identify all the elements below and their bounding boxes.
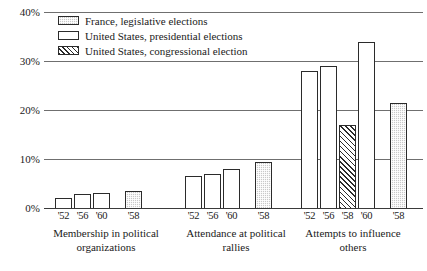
legend-swatch-white-icon [58, 31, 79, 40]
x-ticks-influence: '52 '56 '58 '60 '58 [300, 210, 408, 224]
caption-line: organizations [36, 240, 176, 254]
caption-line: Membership in political [36, 226, 176, 240]
legend-label: United States, congressional election [85, 45, 248, 57]
legend-item-france: France, legislative elections [58, 14, 248, 27]
y-tick-label: 0% [0, 202, 40, 214]
bar-slot [389, 12, 408, 208]
group-caption-membership: Membership in political organizations [36, 226, 176, 254]
bar-chart: 40% 30% 20% 10% 0% [0, 0, 427, 271]
x-ticks-membership: '52 '56 '60 '58 [54, 210, 143, 224]
bar-influence-france-58 [390, 103, 407, 208]
bar-influence-congressional-58 [339, 125, 356, 208]
bar-rallies-60 [223, 169, 240, 208]
x-tick: '60 [92, 210, 111, 222]
bar-slot [338, 12, 357, 208]
legend-item-us-presidential: United States, presidential elections [58, 29, 248, 42]
legend: France, legislative elections United Sta… [58, 14, 248, 57]
legend-label: United States, presidential elections [85, 30, 243, 42]
y-tick-label: 20% [0, 104, 40, 116]
x-tick: '60 [222, 210, 241, 222]
bar-group-influence [300, 12, 408, 208]
x-tick: '56 [319, 210, 338, 222]
bar-influence-60 [358, 42, 375, 208]
x-tick: '58 [124, 210, 143, 222]
x-tick: '58 [338, 210, 357, 222]
bar-membership-56 [74, 194, 91, 208]
x-ticks-rallies: '52 '56 '60 '58 [184, 210, 273, 224]
bar-influence-52 [301, 71, 318, 208]
x-tick: '52 [184, 210, 203, 222]
legend-label: France, legislative elections [85, 15, 207, 27]
x-tick: '56 [73, 210, 92, 222]
x-tick: '60 [357, 210, 376, 222]
x-tick: '52 [300, 210, 319, 222]
y-tick-label: 40% [0, 6, 40, 18]
x-tick: '58 [389, 210, 408, 222]
bar-rallies-france-58 [255, 162, 272, 208]
legend-swatch-hatched-icon [58, 46, 79, 55]
y-tick-label: 30% [0, 55, 40, 67]
bar-membership-60 [93, 193, 110, 208]
bar-membership-52 [55, 198, 72, 208]
x-tick: '58 [254, 210, 273, 222]
y-tick-label: 10% [0, 153, 40, 165]
bar-influence-56 [320, 66, 337, 208]
bar-slot [319, 12, 338, 208]
bar-slot [357, 12, 376, 208]
axis-baseline [44, 208, 423, 209]
legend-swatch-gray-icon [58, 16, 79, 25]
legend-item-us-congressional: United States, congressional election [58, 44, 248, 57]
bar-rallies-56 [204, 174, 221, 208]
bar-slot [300, 12, 319, 208]
bar-slot [254, 12, 273, 208]
group-caption-influence: Attempts to influence others [283, 226, 423, 254]
caption-line: Attempts to influence [283, 226, 423, 240]
caption-line: others [283, 240, 423, 254]
x-tick: '56 [203, 210, 222, 222]
bar-membership-france-58 [125, 191, 142, 208]
x-tick: '52 [54, 210, 73, 222]
bar-rallies-52 [185, 176, 202, 208]
